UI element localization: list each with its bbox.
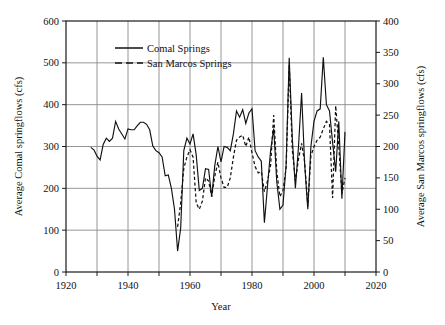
x-tick-label: 1980 <box>242 280 263 291</box>
chart-background <box>0 0 445 325</box>
y-tick-label-left: 200 <box>43 183 59 194</box>
y-tick-label-right: 0 <box>383 267 388 278</box>
y-tick-label-right: 350 <box>383 47 399 58</box>
springflow-line-chart: 1920194019601980200020200100200300400500… <box>0 0 445 325</box>
y-tick-label-right: 100 <box>383 204 399 215</box>
y-tick-label-left: 300 <box>43 141 59 152</box>
y-tick-label-right: 150 <box>383 172 399 183</box>
y-tick-label-right: 400 <box>383 16 399 27</box>
x-tick-label: 2000 <box>304 280 325 291</box>
y-tick-label-right: 200 <box>383 141 399 152</box>
legend-label-san-marcos-springs: San Marcos Springs <box>147 58 232 69</box>
y-tick-label-right: 300 <box>383 78 399 89</box>
x-tick-label: 1960 <box>180 280 201 291</box>
y-axis-title-left: Average Comal springflows (cfs) <box>13 76 25 216</box>
chart-figure: 1920194019601980200020200100200300400500… <box>0 0 445 325</box>
y-tick-label-left: 100 <box>43 225 59 236</box>
y-tick-label-left: 400 <box>43 99 59 110</box>
y-tick-label-left: 500 <box>43 57 59 68</box>
x-tick-label: 2020 <box>366 280 387 291</box>
y-tick-label-left: 0 <box>54 267 59 278</box>
y-axis-title-right: Average San Marcos springflows (cfs) <box>415 65 427 227</box>
x-axis-title: Year <box>211 301 231 312</box>
y-tick-label-right: 250 <box>383 110 399 121</box>
x-tick-label: 1940 <box>118 280 139 291</box>
x-tick-label: 1920 <box>56 280 77 291</box>
y-tick-label-left: 600 <box>43 16 59 27</box>
legend-label-comal-springs: Comal Springs <box>147 43 210 54</box>
y-tick-label-right: 50 <box>383 235 394 246</box>
